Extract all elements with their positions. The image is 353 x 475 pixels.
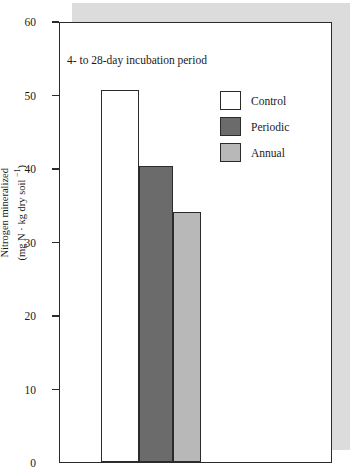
y-tick-mark-30	[52, 242, 59, 244]
y-tick-label-60: 60	[25, 13, 37, 31]
y-tick-mark-40	[52, 168, 59, 170]
y-tick-mark-20	[52, 315, 59, 317]
plot-area: 4- to 28-day incubation period Control P…	[59, 22, 332, 463]
y-tick-mark-50	[52, 95, 59, 97]
y-tick-label-50: 50	[25, 87, 37, 105]
legend-swatch-control	[220, 91, 241, 110]
y-tick-label-0: 0	[30, 454, 36, 472]
legend-item-control: Control	[220, 89, 289, 112]
y-tick-mark-10	[52, 389, 59, 391]
y-axis-title-line2: (mg N · kg dry soil −1)	[11, 108, 28, 318]
legend-item-annual: Annual	[220, 141, 289, 164]
bar-periodic	[139, 166, 173, 462]
legend-label-control: Control	[251, 95, 286, 107]
y-axis-title-line2-post: )	[16, 165, 27, 169]
chart-legend: Control Periodic Annual	[220, 89, 289, 167]
plot-annotation: 4- to 28-day incubation period	[67, 54, 207, 66]
y-axis-title-line2-sup: −1	[13, 169, 22, 178]
y-axis-title: Nitrogen mineralized (mg N · kg dry soil…	[0, 108, 28, 318]
y-axis-title-line2-pre: (mg N · kg dry soil	[16, 177, 27, 260]
bar-control	[101, 90, 139, 462]
bar-annual	[173, 212, 201, 462]
legend-item-periodic: Periodic	[220, 115, 289, 138]
chart-page: { "chart_data": { "type": "bar", "title"…	[0, 0, 353, 475]
legend-swatch-periodic	[220, 117, 241, 136]
legend-label-annual: Annual	[251, 147, 285, 159]
y-axis-title-line1: Nitrogen mineralized	[0, 108, 11, 318]
legend-swatch-annual	[220, 143, 241, 162]
y-tick-label-10: 10	[25, 381, 37, 399]
legend-label-periodic: Periodic	[251, 121, 289, 133]
y-tick-mark-60	[52, 21, 59, 23]
